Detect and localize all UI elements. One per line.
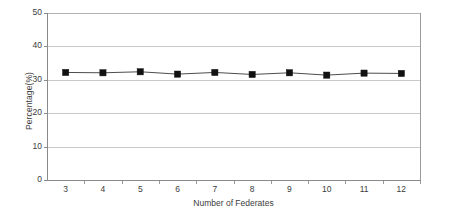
data-point-marker — [324, 72, 330, 78]
data-point-marker — [286, 70, 292, 76]
y-tick-label-0: 0 — [20, 175, 42, 184]
x-tick-mark-9 — [308, 181, 309, 184]
x-tick-label-4: 4 — [91, 185, 115, 194]
y-tick-mark-0 — [44, 180, 47, 181]
x-tick-mark-6 — [196, 181, 197, 184]
x-tick-label-6: 6 — [166, 185, 190, 194]
data-point-marker — [63, 69, 69, 75]
x-tick-mark-5 — [159, 181, 160, 184]
data-series — [47, 13, 420, 180]
series-line — [66, 72, 402, 75]
x-tick-mark-12 — [420, 181, 421, 184]
x-tick-label-9: 9 — [277, 185, 301, 194]
x-tick-label-10: 10 — [315, 185, 339, 194]
data-point-marker — [174, 71, 180, 77]
line-chart: 01020304050 3456789101112 Percentage(%) … — [0, 0, 467, 219]
y-axis-title: Percentage(%) — [24, 0, 38, 46]
x-tick-mark-11 — [383, 181, 384, 184]
x-tick-label-12: 12 — [389, 185, 413, 194]
y-axis-title-label: Percentage(%) — [24, 46, 34, 156]
x-tick-label-5: 5 — [128, 185, 152, 194]
x-tick-label-8: 8 — [240, 185, 264, 194]
x-tick-mark-7 — [234, 181, 235, 184]
plot-right-border — [420, 13, 421, 181]
x-tick-label-7: 7 — [203, 185, 227, 194]
data-point-marker — [100, 70, 106, 76]
data-point-marker — [249, 71, 255, 77]
x-tick-mark-8 — [271, 181, 272, 184]
x-tick-mark-4 — [122, 181, 123, 184]
data-point-marker — [361, 70, 367, 76]
x-tick-label-11: 11 — [352, 185, 376, 194]
x-tick-mark-10 — [345, 181, 346, 184]
x-tick-label-3: 3 — [54, 185, 78, 194]
data-point-marker — [212, 69, 218, 75]
x-tick-mark-3 — [84, 181, 85, 184]
data-point-marker — [398, 70, 404, 76]
data-point-marker — [137, 69, 143, 75]
x-axis-title: Number of Federates — [47, 198, 420, 208]
